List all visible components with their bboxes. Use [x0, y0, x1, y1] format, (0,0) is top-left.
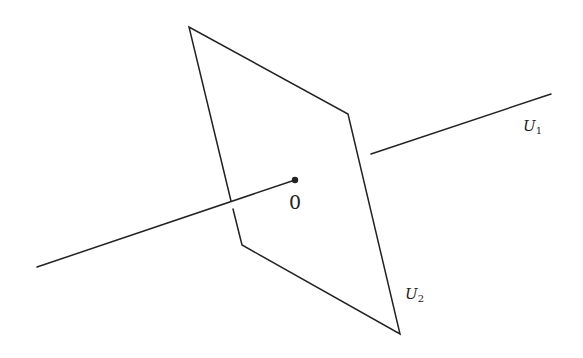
u2-label-subscript: 2 — [418, 293, 424, 304]
u1-label: U1 — [523, 117, 542, 136]
subspace-diagram: 0 U1 U2 — [0, 0, 583, 358]
u2-label: U2 — [405, 285, 424, 304]
origin-label: 0 — [289, 191, 301, 213]
u1-label-subscript: 1 — [536, 125, 542, 136]
origin-point — [292, 177, 298, 183]
line-u1-front-segment — [37, 180, 295, 267]
